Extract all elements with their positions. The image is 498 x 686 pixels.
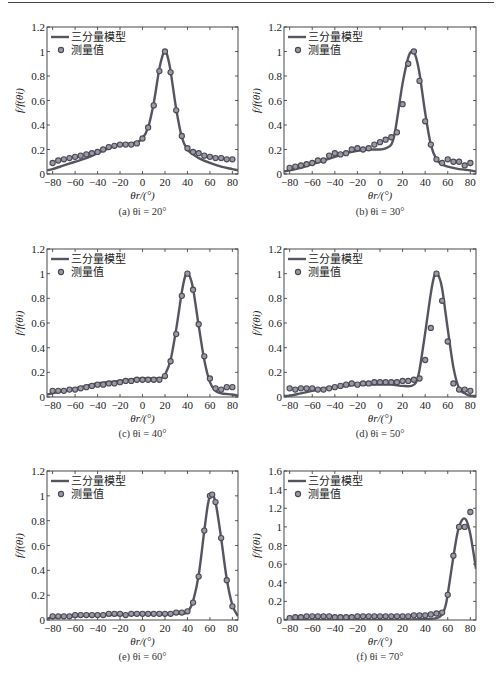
measured-point: [219, 387, 224, 392]
measured-point: [168, 359, 173, 364]
measured-point: [56, 614, 61, 619]
measured-point: [400, 378, 405, 383]
measured-point: [129, 378, 134, 383]
measured-point: [338, 152, 343, 157]
y-tick-label: 1: [40, 268, 46, 280]
measured-point: [134, 611, 139, 616]
subfigure-caption: (f) θi = 70°: [357, 651, 404, 663]
y-tick-label: 1: [40, 490, 46, 502]
measured-point: [78, 612, 83, 617]
measured-point: [101, 147, 106, 152]
measured-point: [383, 614, 388, 619]
measured-point: [78, 386, 83, 391]
y-tick-label: 0.2: [31, 589, 45, 601]
figure-grid: −80−60−40−2002040608000.20.40.60.811.2θr…: [0, 0, 498, 686]
y-tick-label: 0.2: [268, 144, 282, 156]
model-curve: [47, 52, 238, 171]
measured-point: [394, 130, 399, 135]
measured-point: [355, 382, 360, 387]
measured-point: [106, 611, 111, 616]
x-tick-label: 60: [204, 176, 216, 188]
y-tick-label: 0.6: [31, 95, 45, 107]
measured-point: [451, 159, 456, 164]
x-tick-label: 80: [465, 399, 477, 411]
measured-point: [89, 151, 94, 156]
measured-point: [101, 382, 106, 387]
measured-point: [389, 135, 394, 140]
legend-marker-icon: [295, 47, 300, 52]
legend: 三分量模型测量值: [288, 474, 363, 501]
x-tick-label: −40: [89, 622, 107, 634]
measured-point: [411, 377, 416, 382]
measured-point: [360, 614, 365, 619]
measured-point: [394, 380, 399, 385]
y-tick-label: 0.6: [31, 540, 45, 552]
measured-point: [332, 151, 337, 156]
measured-point: [84, 152, 89, 157]
legend-measured-label: 测量值: [71, 488, 104, 501]
x-tick-label: 20: [397, 399, 409, 411]
subplot-c: −80−60−40−2002040608000.20.40.60.811.2θr…: [13, 243, 238, 440]
y-tick-label: 0.4: [268, 119, 282, 131]
measured-point: [440, 160, 445, 165]
measured-point: [332, 385, 337, 390]
x-tick-label: −60: [304, 622, 322, 634]
y-tick-label: 1.2: [268, 21, 282, 33]
y-tick-label: 0.2: [31, 366, 45, 378]
measured-point: [61, 388, 66, 393]
legend-marker-icon: [295, 269, 300, 274]
x-tick-label: 80: [227, 176, 239, 188]
measured-point: [428, 612, 433, 617]
measured-point: [168, 70, 173, 75]
measured-point: [423, 357, 428, 362]
measured-point: [366, 381, 371, 386]
y-tick-label: 0.6: [31, 317, 45, 329]
measured-point: [202, 528, 207, 533]
legend-measured-label: 测量值: [71, 266, 104, 279]
x-tick-label: −60: [66, 176, 84, 188]
y-tick-label: 0: [277, 391, 283, 403]
x-tick-label: 0: [377, 622, 383, 634]
measured-point: [207, 154, 212, 159]
measured-point: [101, 612, 106, 617]
measured-point: [304, 386, 309, 391]
y-axis-label: f/f(θi): [13, 88, 26, 113]
measured-point: [174, 108, 179, 113]
measured-point: [157, 69, 162, 74]
measured-point: [202, 153, 207, 158]
measured-point: [456, 387, 461, 392]
measured-point: [202, 354, 207, 359]
measured-point: [372, 142, 377, 147]
plot-area: [47, 271, 238, 396]
measured-point: [67, 155, 72, 160]
measured-point: [298, 615, 303, 620]
measured-point: [360, 381, 365, 386]
measured-point: [146, 125, 151, 130]
measured-point: [400, 102, 405, 107]
x-tick-label: −60: [304, 399, 322, 411]
legend-model-label: 三分量模型: [71, 30, 126, 44]
legend-model-label: 三分量模型: [71, 474, 126, 488]
y-tick-label: 0.4: [31, 342, 45, 354]
measured-point: [72, 387, 77, 392]
measured-point: [50, 614, 55, 619]
measured-point: [434, 157, 439, 162]
x-tick-label: −20: [111, 622, 129, 634]
subfigure-caption: (a) θi = 20°: [118, 206, 166, 218]
y-tick-label: 0.6: [268, 95, 282, 107]
measured-point: [366, 146, 371, 151]
measured-point: [179, 133, 184, 138]
measured-point: [95, 612, 100, 617]
measured-point: [210, 492, 215, 497]
x-tick-label: 40: [182, 399, 194, 411]
y-axis-label: f/f(θi): [250, 88, 263, 113]
subfigure-caption: (e) θi = 60°: [118, 651, 166, 663]
measured-point: [219, 535, 224, 540]
measured-point: [462, 387, 467, 392]
measured-point: [179, 293, 184, 298]
x-tick-label: 0: [140, 399, 146, 411]
measured-point: [185, 146, 190, 151]
measured-point: [230, 157, 235, 162]
measured-point: [456, 159, 461, 164]
measured-point: [134, 141, 139, 146]
